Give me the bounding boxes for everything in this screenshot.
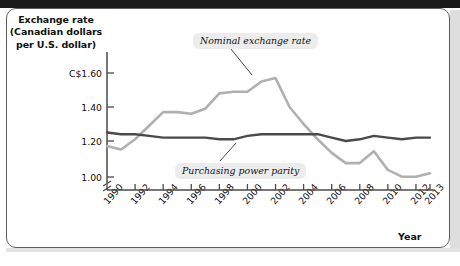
series-group [107,78,430,177]
leader-line-nominal [231,49,252,75]
leader-line-ppp [220,143,236,161]
figure-root: Exchange rate (Canadian dollars per U.S.… [0,0,460,266]
annotation-leader-lines [220,49,252,161]
series-line-nominal-exchange-rate [107,78,430,177]
series-line-purchasing-power-parity [107,133,430,142]
chart-plot-area [0,0,460,266]
